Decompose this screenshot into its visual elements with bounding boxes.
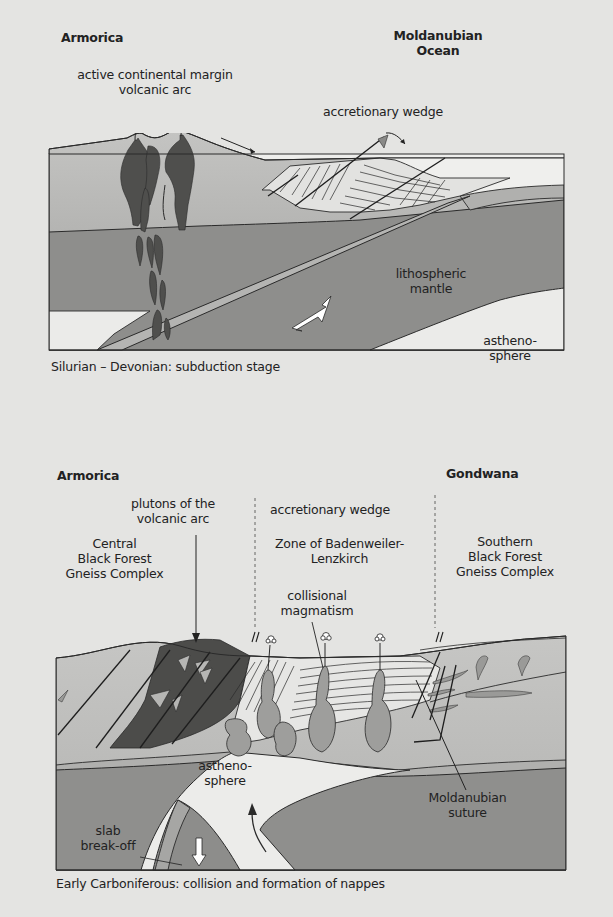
label-accretionary-wedge-bottom: accretionary wedge	[270, 502, 390, 517]
label-central-black-forest: Central Black Forest Gneiss Complex	[52, 536, 177, 581]
label-badenweiler-zone: Zone of Badenweiler- Lenzkirch	[262, 536, 417, 566]
label-southern-line2: Black Forest	[440, 549, 570, 564]
label-plutons-line2: volcanic arc	[118, 511, 228, 526]
label-slab-break-off: slab break-off	[68, 823, 148, 853]
label-arc-line1: active continental margin	[60, 67, 250, 82]
label-armorica-top: Armorica	[61, 30, 123, 45]
label-gondwana: Gondwana	[446, 466, 518, 481]
label-moldanubian-ocean: Moldanubian Ocean	[393, 28, 483, 58]
label-asthenosphere-top: astheno- sphere	[475, 333, 545, 363]
label-slab-line2: break-off	[68, 838, 148, 853]
cross-section-diagrams	[0, 0, 613, 917]
label-arc-line2: volcanic arc	[60, 82, 250, 97]
label-central-line3: Gneiss Complex	[52, 566, 177, 581]
label-suture-line2: suture	[420, 805, 515, 820]
label-astheno2-line1: astheno-	[190, 758, 260, 773]
label-moldanubian-suture: Moldanubian suture	[420, 790, 515, 820]
label-collisional-line1: collisional	[272, 588, 362, 603]
label-armorica-bottom: Armorica	[57, 468, 119, 483]
label-southern-line3: Gneiss Complex	[440, 564, 570, 579]
subduction-stage-section	[49, 107, 564, 351]
label-mantle-line2: mantle	[385, 281, 477, 296]
caption-subduction-stage: Silurian – Devonian: subduction stage	[51, 359, 280, 374]
label-collisional-magmatism: collisional magmatism	[272, 588, 362, 618]
label-southern-line1: Southern	[440, 534, 570, 549]
label-southern-black-forest: Southern Black Forest Gneiss Complex	[440, 534, 570, 579]
label-volcanic-arc: active continental margin volcanic arc	[60, 67, 250, 97]
label-astheno-line2: sphere	[475, 348, 545, 363]
label-collisional-line2: magmatism	[272, 603, 362, 618]
geology-figure: Armorica Moldanubian Ocean active contin…	[0, 0, 613, 917]
label-lithospheric-mantle: lithospheric mantle	[385, 266, 477, 296]
label-moldanubian: Moldanubian	[393, 28, 483, 43]
label-accretionary-wedge-top: accretionary wedge	[323, 104, 443, 119]
label-suture-line1: Moldanubian	[420, 790, 515, 805]
label-zone-line2: Lenzkirch	[262, 551, 417, 566]
label-plutons: plutons of the volcanic arc	[118, 496, 228, 526]
label-zone-line1: Zone of Badenweiler-	[262, 536, 417, 551]
label-astheno-line1: astheno-	[475, 333, 545, 348]
label-central-line1: Central	[52, 536, 177, 551]
wedge-ridge	[378, 135, 388, 148]
caption-collision-stage: Early Carboniferous: collision and forma…	[56, 876, 385, 891]
label-slab-line1: slab	[68, 823, 148, 838]
plate-motion-arrowhead	[250, 148, 255, 154]
label-ocean: Ocean	[393, 43, 483, 58]
label-mantle-line1: lithospheric	[385, 266, 477, 281]
label-central-line2: Black Forest	[52, 551, 177, 566]
label-asthenosphere-bottom: astheno- sphere	[190, 758, 260, 788]
volcano-icons-collision	[266, 633, 385, 644]
fault-offset-markers	[252, 632, 443, 642]
volcano-icons	[131, 107, 187, 115]
label-plutons-line1: plutons of the	[118, 496, 228, 511]
label-astheno2-line2: sphere	[190, 773, 260, 788]
